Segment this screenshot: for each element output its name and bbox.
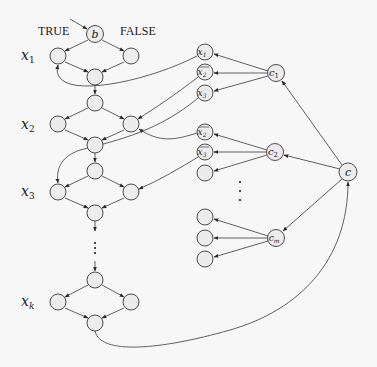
var-label-x3: x3 bbox=[21, 183, 35, 201]
node-xk-true bbox=[50, 294, 66, 310]
node-x3-true bbox=[50, 184, 66, 200]
node-merge-3 bbox=[87, 205, 103, 221]
svg-text:b: b bbox=[91, 28, 98, 41]
node-merge-2 bbox=[87, 137, 103, 153]
clause-nodes: c1 c2 cm c bbox=[267, 65, 358, 247]
false-label: FALSE bbox=[120, 24, 156, 38]
diagram: TRUE FALSE x1 x2 x3 xk bbox=[0, 0, 377, 367]
var-label-x1: x1 bbox=[21, 47, 35, 65]
vertical-ellipsis-left bbox=[94, 242, 96, 254]
node-top-2 bbox=[87, 95, 103, 111]
var-label-x2: x2 bbox=[21, 116, 35, 134]
literal-empty-3 bbox=[197, 230, 213, 246]
vertical-ellipsis-right bbox=[239, 181, 241, 201]
reduction-graph: TRUE FALSE x1 x2 x3 xk bbox=[0, 0, 377, 367]
node-merge-k bbox=[87, 315, 103, 331]
node-x1-true bbox=[50, 48, 66, 64]
node-x2-false bbox=[123, 116, 139, 132]
literal-empty-1 bbox=[197, 165, 213, 181]
literal-nodes: x1 x2 x3 x2 x3 bbox=[197, 44, 213, 267]
node-xk-false bbox=[123, 294, 139, 310]
literal-empty-2 bbox=[197, 209, 213, 225]
node-top-3 bbox=[87, 163, 103, 179]
node-x1-false bbox=[123, 48, 139, 64]
true-label: TRUE bbox=[38, 24, 69, 38]
svg-text:c: c bbox=[345, 166, 351, 179]
node-x2-true bbox=[50, 116, 66, 132]
node-x3-false bbox=[123, 184, 139, 200]
node-merge-1 bbox=[87, 69, 103, 85]
chain-nodes: b bbox=[50, 26, 139, 332]
literal-empty-4 bbox=[197, 251, 213, 267]
node-top-k bbox=[87, 272, 103, 288]
var-label-xk: xk bbox=[21, 293, 34, 311]
variable-labels: x1 x2 x3 xk bbox=[21, 47, 35, 311]
